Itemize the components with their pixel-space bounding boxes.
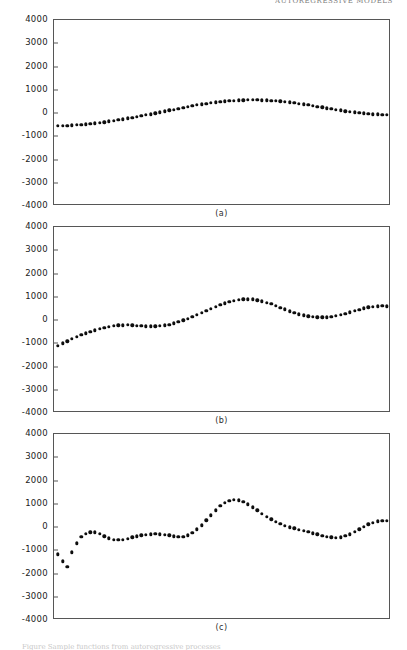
data-point <box>154 112 157 115</box>
data-point <box>293 527 296 530</box>
data-point <box>269 99 272 102</box>
data-point <box>56 124 59 127</box>
data-point <box>61 560 64 563</box>
data-point <box>293 101 296 104</box>
data-point <box>320 534 323 537</box>
data-point <box>186 105 189 108</box>
data-point <box>311 104 314 107</box>
data-point <box>200 103 203 106</box>
data-point <box>112 538 115 541</box>
data-point <box>135 535 138 538</box>
data-point <box>205 102 208 105</box>
y-ticklabel: 1000 <box>25 498 48 508</box>
data-point <box>98 121 101 124</box>
data-point <box>344 534 347 537</box>
data-point <box>367 306 370 309</box>
data-point <box>103 326 106 329</box>
data-point <box>251 298 254 301</box>
panel-label: (c) <box>53 623 390 632</box>
data-point <box>339 536 342 539</box>
data-point <box>330 107 333 110</box>
data-point <box>320 316 323 319</box>
data-point <box>288 526 291 529</box>
data-point <box>144 325 147 328</box>
data-point <box>325 315 328 318</box>
data-point <box>325 107 328 110</box>
data-point <box>232 299 235 302</box>
data-point <box>320 106 323 109</box>
y-ticklabel: 3000 <box>25 244 48 254</box>
data-point <box>283 524 286 527</box>
data-series-series-c <box>54 434 389 618</box>
data-point <box>339 109 342 112</box>
data-point <box>357 308 360 311</box>
data-point <box>293 311 296 314</box>
data-point <box>232 99 235 102</box>
data-point <box>256 509 259 512</box>
data-point <box>177 535 180 538</box>
data-point <box>103 535 106 538</box>
data-point <box>334 536 337 539</box>
data-point <box>251 506 254 509</box>
y-ticklabel: 1000 <box>25 291 48 301</box>
data-point <box>205 519 208 522</box>
data-point <box>140 534 143 537</box>
data-point <box>228 99 231 102</box>
data-point <box>251 98 254 101</box>
data-point <box>130 536 133 539</box>
data-point <box>66 565 69 568</box>
data-point <box>371 305 374 308</box>
data-point <box>246 98 249 101</box>
data-point <box>385 113 388 116</box>
data-point <box>56 553 59 556</box>
data-point <box>163 533 166 536</box>
data-point <box>149 533 152 536</box>
data-point <box>353 309 356 312</box>
data-point <box>98 327 101 330</box>
data-point <box>274 520 277 523</box>
data-point <box>385 519 388 522</box>
data-point <box>61 342 64 345</box>
data-point <box>126 117 129 120</box>
data-point <box>191 315 194 318</box>
data-point <box>191 531 194 534</box>
y-ticklabel: -3000 <box>22 177 48 187</box>
data-point <box>232 498 235 501</box>
data-point <box>172 535 175 538</box>
data-point <box>130 324 133 327</box>
data-point <box>246 503 249 506</box>
data-point <box>362 307 365 310</box>
data-point <box>117 118 120 121</box>
data-point <box>205 309 208 312</box>
data-point <box>84 123 87 126</box>
data-point <box>75 542 78 545</box>
y-ticklabel: 3000 <box>25 37 48 47</box>
data-point <box>89 531 92 534</box>
y-ticklabel: -2000 <box>22 568 48 578</box>
data-point <box>168 534 171 537</box>
data-point <box>181 535 184 538</box>
data-point <box>344 109 347 112</box>
data-point <box>181 319 184 322</box>
data-point <box>242 98 245 101</box>
data-point <box>121 118 124 121</box>
data-point <box>274 99 277 102</box>
data-point <box>353 530 356 533</box>
data-point <box>283 100 286 103</box>
y-axis-ticklabels: 40003000200010000-1000-2000-3000-4000 <box>0 433 51 619</box>
data-point <box>307 103 310 106</box>
data-point <box>279 306 282 309</box>
data-point <box>75 335 78 338</box>
data-point <box>316 316 319 319</box>
data-point <box>200 311 203 314</box>
data-point <box>367 523 370 526</box>
data-point <box>121 323 124 326</box>
data-point <box>385 305 388 308</box>
data-point <box>89 122 92 125</box>
figure-caption-fragment: Figure Sample functions from autoregress… <box>22 644 221 650</box>
panel-label: (a) <box>53 209 390 218</box>
data-point <box>297 528 300 531</box>
data-point <box>126 537 129 540</box>
data-point <box>177 320 180 323</box>
data-series-series-b <box>54 227 389 411</box>
